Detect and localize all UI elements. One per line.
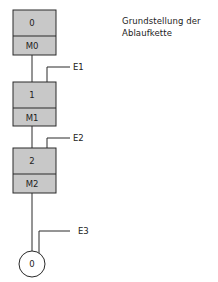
transition-e2: E2	[47, 133, 84, 148]
transition-e3-label: E3	[78, 226, 89, 236]
step-2-action: M2	[26, 179, 39, 189]
diagram-caption: Grundstellung der Ablaufkette	[122, 15, 201, 39]
step-1-number: 1	[29, 90, 34, 100]
transition-e1: E1	[47, 62, 84, 82]
step-1-box: 1 M1	[13, 82, 56, 126]
step-2-number: 2	[29, 156, 34, 166]
step-0-action: M0	[26, 41, 39, 51]
caption-line-2: Ablaufkette	[122, 27, 201, 39]
step-2-box: 2 M2	[13, 148, 56, 193]
step-0-box: 0 M0	[13, 10, 56, 55]
end-state-label: 0	[29, 259, 34, 269]
end-state-circle: 0	[19, 251, 45, 277]
step-1-action: M1	[26, 113, 39, 123]
transition-e3: E3	[39, 226, 89, 253]
sequence-chain-diagram: 0 M0 E1 1 M1 E2 2 M2 E3 0	[0, 0, 218, 282]
step-0-number: 0	[29, 18, 34, 28]
transition-e2-label: E2	[73, 133, 84, 143]
transition-e1-label: E1	[73, 62, 84, 72]
caption-line-1: Grundstellung der	[122, 15, 201, 27]
